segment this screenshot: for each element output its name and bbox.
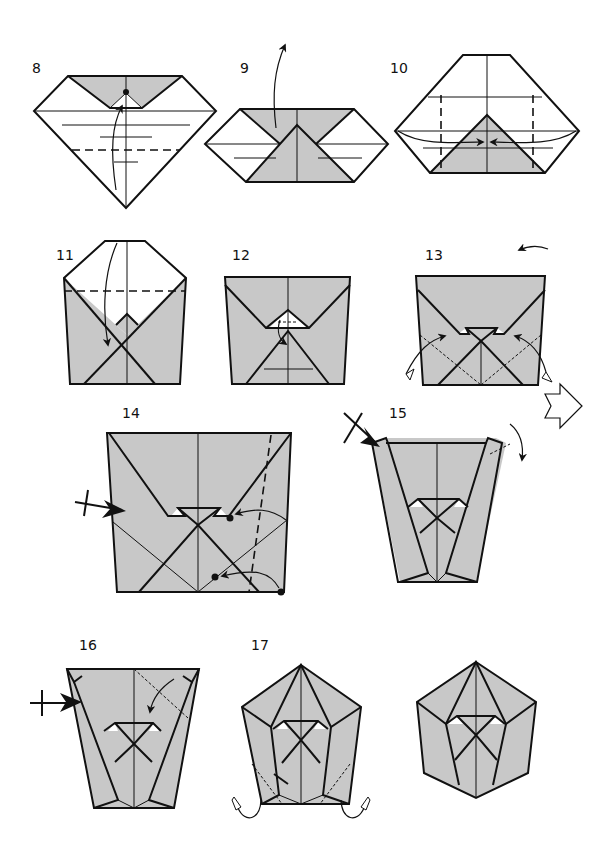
step-8-diagram <box>34 76 216 208</box>
fold-behind-arrow <box>510 424 523 460</box>
step-16-diagram <box>30 669 199 808</box>
dot-target-lower <box>212 574 219 581</box>
dot-source <box>278 589 285 596</box>
squash-push-icon <box>344 413 380 447</box>
dot-target-upper <box>227 515 234 522</box>
final-model-diagram <box>417 662 536 798</box>
target-dot <box>123 89 129 95</box>
step-12-diagram <box>225 277 350 384</box>
step-15-diagram <box>344 413 523 582</box>
fold-behind-left-arrow <box>238 800 261 818</box>
step-17-diagram <box>232 665 370 818</box>
step-11-diagram <box>64 241 186 384</box>
origami-diagram-canvas <box>0 0 607 855</box>
step-10-diagram <box>395 55 579 173</box>
step-14-diagram <box>75 433 291 596</box>
step-13-diagram <box>406 246 582 428</box>
rotate-arrow <box>519 246 548 250</box>
turn-over-icon <box>545 384 582 428</box>
step-9-diagram <box>205 45 388 182</box>
